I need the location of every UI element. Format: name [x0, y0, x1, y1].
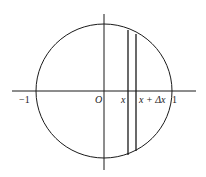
unit-circle-diagram: −1 O x x + Δx 1: [0, 0, 206, 177]
label-one: 1: [172, 94, 177, 105]
label-minus-one: −1: [19, 94, 30, 105]
label-x-plus-dx: x + Δx: [138, 94, 166, 105]
label-origin: O: [95, 94, 102, 105]
label-x: x: [120, 94, 126, 105]
